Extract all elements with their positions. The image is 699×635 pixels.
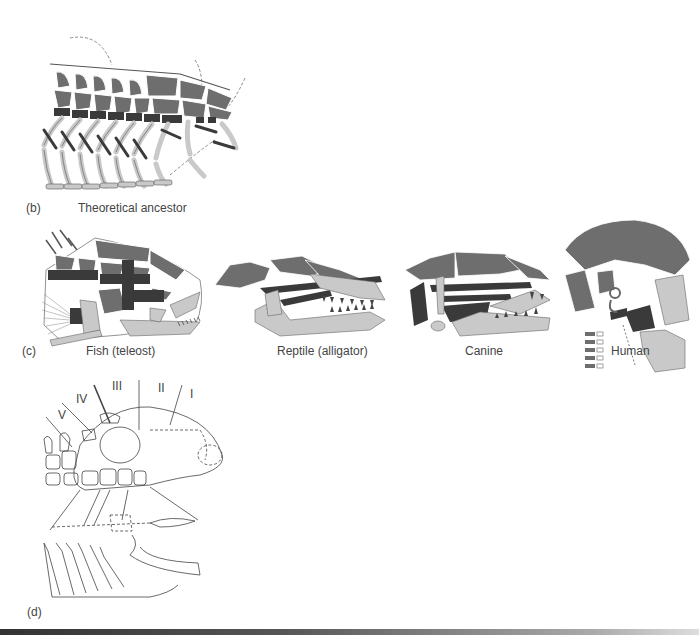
panel-d: V IV III II I (d) — [0, 375, 280, 630]
arch-label-ii: II — [158, 381, 165, 395]
human-skull-illustration — [555, 50, 699, 345]
panel-d-letter: (d) — [27, 605, 42, 619]
bottom-rule — [0, 629, 699, 635]
pharyngeal-arch-diagram — [0, 375, 280, 605]
canine-skull-illustration — [400, 230, 560, 340]
arch-label-i: I — [190, 387, 193, 401]
panel-b-caption: Theoretical ancestor — [78, 201, 187, 215]
arch-label-iii: III — [112, 379, 122, 393]
panel-c: (c) Fish (teleost) Reptile (alligator) — [0, 230, 699, 375]
human-caption: Human — [611, 344, 650, 358]
arch-label-v: V — [58, 408, 66, 422]
reptile-caption: Reptile (alligator) — [277, 344, 368, 358]
panel-b-letter: (b) — [26, 201, 41, 215]
canine-caption: Canine — [465, 344, 503, 358]
panel-c-letter: (c) — [22, 344, 36, 358]
panel-b: (b) Theoretical ancestor — [0, 0, 300, 230]
theoretical-ancestor-illustration — [0, 0, 300, 210]
reptile-alligator-skull-illustration — [210, 230, 400, 340]
fish-caption: Fish (teleost) — [86, 344, 155, 358]
arch-label-iv: IV — [76, 392, 87, 406]
fish-teleost-skull-illustration — [0, 230, 210, 345]
